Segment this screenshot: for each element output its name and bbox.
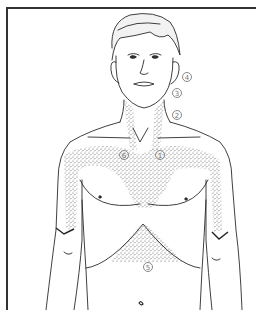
arrow-down-right-icon — [212, 232, 228, 239]
medical-illustration: 1 2 3 4 5 6 — [0, 0, 256, 310]
region-label-4: 4 — [182, 72, 192, 82]
stippled-abdomen-region — [110, 224, 182, 262]
region-label-2: 2 — [172, 110, 182, 120]
region-label-1: 1 — [155, 150, 165, 160]
stippled-neck-region — [124, 100, 164, 150]
region-label-5: 5 — [143, 262, 153, 272]
region-label-6: 6 — [119, 150, 129, 160]
stippled-chest-shoulder-region — [64, 146, 222, 232]
region-label-3: 3 — [172, 88, 182, 98]
